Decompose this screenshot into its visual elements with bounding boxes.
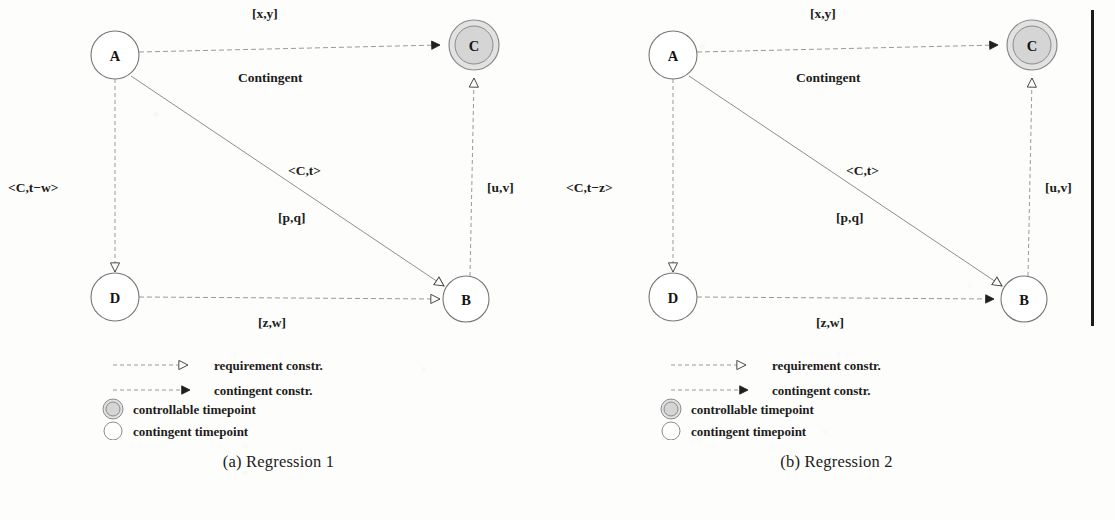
edge-label-A-D: <C,t−z> [566,180,613,195]
legend: requirement constr. contingent constr. c… [661,358,881,440]
legend-label-contingent: contingent constr. [772,383,870,398]
edge-label-A-C-above: [x,y] [252,6,278,21]
legend-item-controllable-timepoint: controllable timepoint [661,399,815,419]
node-B[interactable]: B [1001,276,1047,322]
node-D-label: D [110,290,120,306]
node-A-label: A [110,48,121,64]
edge-D-B [139,297,440,299]
edge-label-A-C-above: [x,y] [810,6,836,21]
edge-label-D-B: [z,w] [258,315,286,330]
legend-item-contingent: contingent constr. [671,383,870,398]
legend-item-requirement: requirement constr. [113,358,323,373]
legend-label-controllable: controllable timepoint [691,402,815,417]
legend-item-contingent: contingent constr. [113,383,312,398]
legend-item-contingent-timepoint: contingent timepoint [104,422,249,440]
edge-A-C [697,45,998,52]
edge-D-B [697,297,994,299]
caption-text-1: (a) Regression 1 [223,452,334,472]
edge-label-D-B: [z,w] [816,315,844,330]
legend-label-requirement: requirement constr. [772,358,881,373]
edge-B-C [470,78,474,276]
edge-B-C [1028,78,1032,276]
stn-diagram-2: [x,y] Contingent <C,t> [p,q] <C,t−z> [u,… [558,0,1115,440]
node-A-label: A [668,48,679,64]
node-B-label: B [461,292,471,308]
edge-label-A-B-below: [p,q] [836,210,863,225]
stn-diagram-1: [x,y] Contingent <C,t> [p,q] <C,t−w> [u,… [0,0,557,440]
edge-label-B-C: [u,v] [1045,180,1072,195]
figure-page: [x,y] Contingent <C,t> [p,q] <C,t−w> [u,… [0,0,1115,520]
caption-text-2: (b) Regression 2 [780,452,892,472]
edge-label-A-B-above: <C,t> [846,163,879,178]
node-C-label: C [469,38,479,54]
edge-label-B-C: [u,v] [487,180,514,195]
vertical-rule [1091,10,1094,326]
edge-A-B [689,76,1002,286]
edge-label-A-B-below: [p,q] [278,210,305,225]
legend-item-contingent-timepoint: contingent timepoint [662,422,807,440]
edge-label-A-C-below: Contingent [796,70,861,85]
node-D[interactable]: D [91,273,139,321]
panel-regression-1: [x,y] Contingent <C,t> [p,q] <C,t−w> [u,… [0,0,557,520]
edge-label-A-B-above: <C,t> [288,163,321,178]
legend-label-contingent-tp: contingent timepoint [133,424,249,439]
node-A[interactable]: A [91,31,139,79]
node-B-label: B [1019,292,1029,308]
node-C[interactable]: C [1007,20,1057,70]
edge-A-C [139,45,440,52]
edge-A-B [131,76,444,286]
legend-label-contingent: contingent constr. [214,383,312,398]
legend-item-requirement: requirement constr. [671,358,881,373]
panel-caption-2: (b) Regression 2 [558,452,1115,472]
node-B[interactable]: B [443,276,489,322]
panel-regression-2: [x,y] Contingent <C,t> [p,q] <C,t−z> [u,… [558,0,1115,520]
node-C[interactable]: C [449,20,499,70]
panel-caption-1: (a) Regression 1 [0,452,557,472]
node-C-label: C [1027,38,1037,54]
node-D[interactable]: D [649,273,697,321]
legend: requirement constr. contingent constr. c… [103,358,323,440]
legend-label-requirement: requirement constr. [214,358,323,373]
legend-item-controllable-timepoint: controllable timepoint [103,399,257,419]
edge-label-A-C-below: Contingent [238,70,303,85]
legend-label-contingent-tp: contingent timepoint [691,424,807,439]
legend-label-controllable: controllable timepoint [133,402,257,417]
node-D-label: D [668,290,678,306]
node-A[interactable]: A [649,31,697,79]
edge-label-A-D: <C,t−w> [8,180,58,195]
